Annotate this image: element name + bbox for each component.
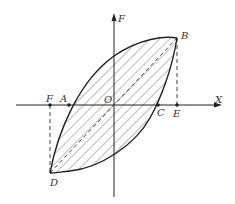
label-c: C [157, 107, 165, 118]
x-axis-label: X [214, 94, 223, 105]
y-axis-label: F [117, 13, 126, 24]
point-a [67, 103, 71, 107]
label-f: F [45, 93, 54, 104]
y-axis-arrow-icon [112, 13, 117, 21]
origin-label: O [104, 94, 112, 105]
hysteresis-diagram: F X O B F A C E D [0, 0, 235, 204]
label-a: A [59, 93, 67, 104]
diagram-svg: F X O B F A C E D [0, 0, 235, 204]
label-d: D [49, 177, 58, 188]
point-e [175, 103, 179, 107]
label-e: E [172, 108, 181, 119]
label-b: B [180, 30, 188, 41]
